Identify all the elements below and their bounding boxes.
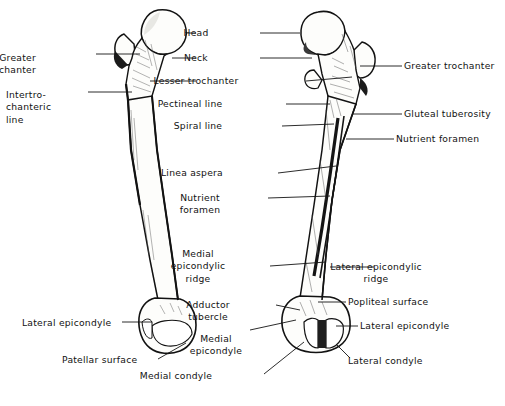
intercondylar-fossa: [318, 320, 326, 348]
femur-anatomy-figure: Greater trochanter Intertro- chanteric l…: [0, 0, 505, 406]
anatomy-illustration: [0, 0, 505, 406]
figure-background: [0, 0, 505, 406]
